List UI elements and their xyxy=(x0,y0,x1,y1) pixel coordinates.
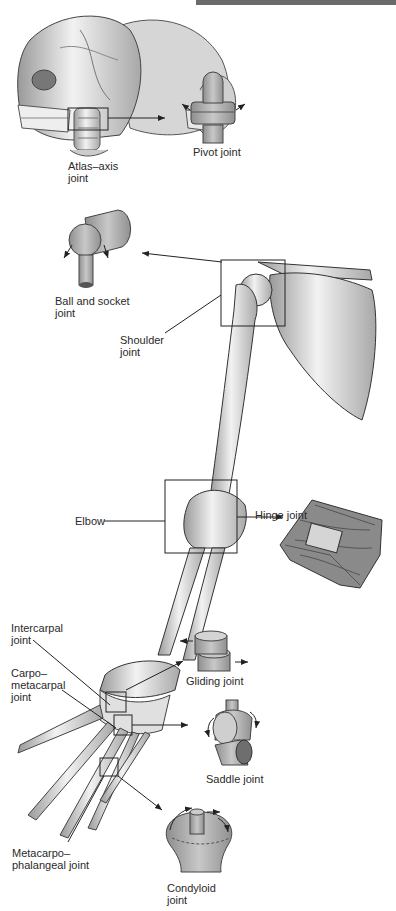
shoulder-leader xyxy=(165,295,221,333)
saddle-joint-label: Saddle joint xyxy=(206,773,264,785)
saddle-joint-icon xyxy=(208,700,256,765)
carpometacarpal-label: Carpo– metacarpal joint xyxy=(11,667,65,703)
metacarpophalangeal-label: Metacarpo– phalangeal joint xyxy=(12,847,89,871)
condyloid-arrow xyxy=(118,776,162,810)
joint-diagram xyxy=(0,0,396,911)
condyloid-joint-icon xyxy=(166,808,232,872)
ball-socket-joint-icon xyxy=(64,210,131,288)
atlas-axis-label: Atlas–axis joint xyxy=(68,160,118,184)
hinge-joint-label: Hinge joint xyxy=(255,509,307,521)
pivot-joint-label: Pivot joint xyxy=(193,146,241,158)
condyloid-joint-label: Condyloid joint xyxy=(167,882,216,906)
elbow-label: Elbow xyxy=(75,515,105,527)
shoulder-arrow xyxy=(142,253,222,262)
gliding-joint-label: Gliding joint xyxy=(186,675,243,687)
shoulder-joint-label: Shoulder joint xyxy=(120,334,164,358)
intercarpal-label: Intercarpal joint xyxy=(11,622,63,646)
ball-socket-label: Ball and socket joint xyxy=(55,295,130,319)
